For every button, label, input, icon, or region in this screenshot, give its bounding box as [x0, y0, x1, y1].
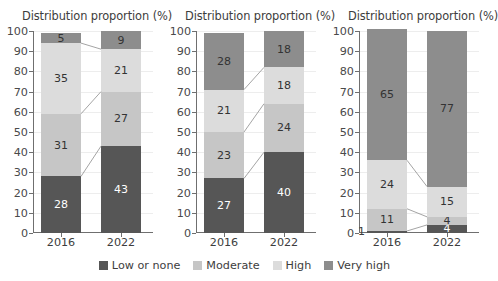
bar-segment[interactable]: 31	[41, 114, 81, 177]
panel-title: Distribution proportion (%)	[22, 9, 172, 23]
bar-segment-value-label: 18	[277, 44, 291, 55]
bar-segment-value-label: 40	[277, 187, 291, 198]
bar-segment[interactable]: 35	[41, 43, 81, 114]
bar-segment-value-label: 43	[114, 184, 128, 195]
y-axis-tick-label: 100	[170, 25, 191, 38]
bar-segment[interactable]: 24	[367, 160, 407, 208]
y-axis-tick-label: 10	[14, 206, 28, 219]
stacked-bar[interactable]: 27232128	[204, 31, 244, 233]
bar-segment-value-label: 15	[440, 196, 454, 207]
y-axis-tick-label: 60	[177, 105, 191, 118]
chart-panel-2: Distribution proportion (%)1009080706050…	[163, 0, 326, 256]
chart-panel-1: Distribution proportion (%)1009080706050…	[0, 0, 163, 256]
bar-segment[interactable]: 28	[204, 33, 244, 90]
panel-row: Distribution proportion (%)1009080706050…	[0, 0, 489, 256]
legend-item[interactable]: Low or none	[99, 259, 181, 272]
y-axis-tick-label: 20	[14, 186, 28, 199]
bar-segment-value-label: 24	[380, 179, 394, 190]
stacked-bar[interactable]: 2831355	[41, 31, 81, 233]
stacked-bar[interactable]: 4327219	[101, 31, 141, 233]
bar-segment[interactable]: 18	[264, 31, 304, 67]
stacked-bar[interactable]: 441577	[427, 31, 467, 233]
panel-title: Distribution proportion (%)	[185, 9, 335, 23]
x-axis-tick-label: 2016	[373, 236, 401, 249]
bar-segment-value-label: 27	[114, 113, 128, 124]
legend-swatch-icon	[99, 261, 108, 270]
legend-label: Low or none	[112, 259, 181, 272]
bar-segment[interactable]: 40	[264, 152, 304, 233]
legend-item[interactable]: Very high	[324, 259, 390, 272]
y-axis-tick-label: 80	[14, 65, 28, 78]
legend-label: High	[286, 259, 312, 272]
y-axis-tick-label: 30	[14, 166, 28, 179]
bar-segment-value-label: 9	[118, 35, 125, 46]
y-axis-line	[359, 31, 360, 233]
y-axis-tick-label: 20	[340, 186, 354, 199]
y-axis-tick-label: 70	[340, 85, 354, 98]
legend-swatch-icon	[273, 261, 282, 270]
bar-segment[interactable]: 18	[264, 67, 304, 103]
y-axis-tick-label: 40	[340, 146, 354, 159]
bar-segment[interactable]: 21	[101, 49, 141, 91]
bar-segment[interactable]: 28	[41, 176, 81, 233]
bar-segment[interactable]: 77	[427, 31, 467, 187]
y-axis-tick-label: 50	[177, 126, 191, 139]
bar-segment-value-label: 77	[440, 103, 454, 114]
y-axis-tick-label: 20	[177, 186, 191, 199]
bar-segment-value-label: 28	[217, 56, 231, 67]
legend-item[interactable]: High	[273, 259, 312, 272]
bar-segment-value-label: 24	[277, 122, 291, 133]
bar-segment[interactable]: 21	[204, 90, 244, 132]
bar-segment-value-label: 23	[217, 150, 231, 161]
y-axis-tick-label: 80	[340, 65, 354, 78]
x-axis-tick-label: 2022	[107, 236, 135, 249]
bar-segment-value-label: 4	[444, 215, 451, 226]
bar-segment[interactable]: 27	[101, 92, 141, 147]
stacked-bar[interactable]: 112465	[367, 31, 407, 233]
legend-label: Very high	[337, 259, 390, 272]
y-axis-tick-label: 70	[177, 85, 191, 98]
y-axis-tick-label: 100	[333, 25, 354, 38]
bar-segment-value-label: 5	[58, 33, 65, 44]
y-axis-tick-label: 90	[340, 45, 354, 58]
legend-label: Moderate	[206, 259, 259, 272]
bar-segment-value-label: 18	[277, 80, 291, 91]
stacked-bar[interactable]: 40241818	[264, 31, 304, 233]
x-axis-tick-label: 2022	[270, 236, 298, 249]
chart-legend: Low or noneModerateHighVery high	[0, 259, 489, 272]
y-axis-tick-label: 80	[177, 65, 191, 78]
bar-segment-value-label-outside: 1	[358, 225, 365, 238]
plot-area: 1009080706050403020100111246520164415772…	[359, 31, 479, 233]
y-axis-tick-label: 40	[177, 146, 191, 159]
bar-segment-value-label: 35	[54, 73, 68, 84]
bar-segment[interactable]: 5	[41, 33, 81, 43]
bar-segment[interactable]: 24	[264, 104, 304, 152]
bar-segment[interactable]: 9	[101, 31, 141, 49]
bar-segment[interactable]: 23	[204, 132, 244, 178]
y-axis-tick-label: 40	[14, 146, 28, 159]
y-axis-tick-label: 10	[177, 206, 191, 219]
bar-segment-value-label: 65	[380, 89, 394, 100]
x-axis-tick-label: 2022	[433, 236, 461, 249]
bar-segment[interactable]: 27	[204, 178, 244, 233]
y-axis-line	[196, 31, 197, 233]
bar-segment-value-label: 21	[114, 65, 128, 76]
x-axis-tick-label: 2016	[210, 236, 238, 249]
y-axis-tick-label: 70	[14, 85, 28, 98]
y-axis-tick-label: 50	[340, 126, 354, 139]
y-axis-tick	[192, 233, 196, 234]
y-axis-tick	[29, 233, 33, 234]
y-axis-tick-label: 100	[7, 25, 28, 38]
legend-item[interactable]: Moderate	[193, 259, 259, 272]
bar-segment[interactable]: 4	[427, 217, 467, 225]
y-axis-tick-label: 90	[14, 45, 28, 58]
bar-segment[interactable]: 43	[101, 146, 141, 233]
y-axis-tick-label: 0	[347, 227, 354, 240]
panel-title: Distribution proportion (%)	[348, 9, 498, 23]
y-axis-tick-label: 10	[340, 206, 354, 219]
bar-segment[interactable]: 15	[427, 187, 467, 217]
bar-segment[interactable]: 11	[367, 209, 407, 231]
chart-panel-3: Distribution proportion (%)1009080706050…	[326, 0, 489, 256]
bar-segment[interactable]: 65	[367, 29, 407, 160]
